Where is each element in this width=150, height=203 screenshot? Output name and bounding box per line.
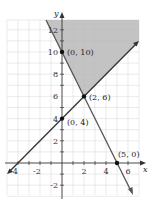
x-tick-label: -4 [10, 167, 18, 176]
y-tick-label: -2 [50, 181, 58, 190]
y-tick-label: 2 [53, 137, 58, 146]
point-0-10 [60, 50, 64, 54]
y-tick-label: 12 [48, 26, 58, 35]
point-2-6 [82, 94, 86, 98]
decreasing-line-arrow-icon [128, 187, 133, 195]
y-axis-label: y [53, 9, 59, 18]
point-5-0 [115, 161, 119, 165]
y-axis-arrow-icon [60, 12, 65, 18]
x-tick-label: 4 [103, 167, 108, 176]
label-point-0-10: (0, 10) [67, 48, 94, 57]
y-tick-label: 8 [53, 70, 58, 79]
y-tick-label: 10 [48, 48, 58, 57]
x-axis-label: x [143, 165, 148, 174]
label-point-2-6: (2, 6) [89, 93, 111, 102]
shaded-region [46, 20, 139, 96]
y-tick-label: 4 [53, 115, 58, 124]
label-point-0-4: (0, 4) [67, 118, 89, 127]
x-tick-label: 6 [125, 167, 130, 176]
point-0-4 [60, 116, 64, 120]
x-tick-label: 2 [81, 167, 86, 176]
x-tick-label: -2 [33, 167, 41, 176]
label-point-5-0: (5, 0) [118, 150, 140, 159]
y-tick-label: 6 [53, 92, 58, 101]
inequality-graph: (0, 10) (2, 6) (0, 4) (5, 0) x y -4 -2 2… [0, 0, 150, 203]
